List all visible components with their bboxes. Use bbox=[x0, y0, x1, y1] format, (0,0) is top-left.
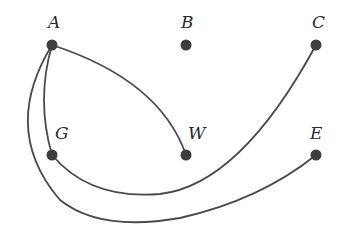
node-c bbox=[311, 40, 322, 51]
node-w bbox=[181, 150, 192, 161]
nodes bbox=[47, 40, 322, 161]
label-g: G bbox=[55, 123, 69, 143]
label-e: E bbox=[309, 123, 323, 143]
edge-a-w bbox=[52, 45, 186, 155]
node-e bbox=[311, 150, 322, 161]
node-a bbox=[47, 40, 58, 51]
edge-a-g bbox=[44, 45, 52, 155]
label-a: A bbox=[46, 12, 60, 32]
edges bbox=[28, 45, 316, 222]
label-b: B bbox=[180, 12, 194, 32]
graph-diagram: A B C G W E bbox=[0, 0, 342, 229]
edge-g-c bbox=[52, 45, 316, 195]
node-g bbox=[47, 150, 58, 161]
labels: A B C G W E bbox=[46, 12, 325, 143]
label-w: W bbox=[188, 123, 207, 143]
edge-a-e bbox=[28, 45, 316, 222]
label-c: C bbox=[312, 12, 325, 32]
node-b bbox=[181, 40, 192, 51]
